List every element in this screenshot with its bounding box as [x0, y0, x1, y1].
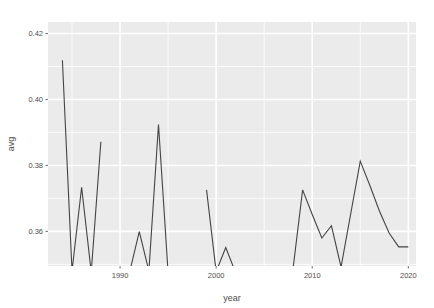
y-tick-label: 0.36	[28, 227, 43, 236]
plot-panel	[48, 22, 416, 266]
chart-container: 0.360.380.400.42 1990200020102020 year a…	[0, 0, 434, 308]
y-tick-label: 0.40	[28, 95, 43, 104]
x-tick-label: 2000	[208, 271, 225, 280]
y-tick-label: 0.38	[28, 161, 43, 170]
y-tick-label: 0.42	[28, 29, 43, 38]
x-axis-title: year	[223, 293, 241, 303]
x-tick-label: 2010	[304, 271, 321, 280]
x-tick-label: 2020	[400, 271, 417, 280]
x-tick-label: 1990	[112, 271, 129, 280]
line-chart: 0.360.380.400.42 1990200020102020 year a…	[0, 0, 434, 308]
y-axis-title: avg	[6, 137, 16, 152]
